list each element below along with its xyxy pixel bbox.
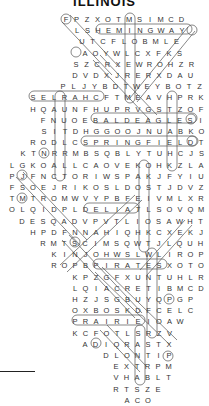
mark-vertical-1 bbox=[125, 13, 135, 103]
mark-vertical-2 bbox=[55, 91, 65, 181]
mark-diagonal-7-outline bbox=[95, 267, 177, 345]
mark-diagonal-1 bbox=[66, 18, 115, 70]
mark-diagonal-2-outline bbox=[130, 27, 195, 102]
mark-circle-11 bbox=[91, 338, 101, 348]
mark-circle-4 bbox=[186, 114, 196, 124]
mark-diagonal-6-outline bbox=[62, 235, 142, 318]
mark-vertical-6 bbox=[135, 325, 145, 385]
mark-circle-9 bbox=[70, 237, 80, 247]
mark-vertical-3 bbox=[167, 91, 177, 171]
mark-selrahc bbox=[29, 91, 104, 101]
bottom-divider bbox=[0, 371, 35, 372]
mark-baldeagles bbox=[91, 113, 197, 123]
grid-letter[interactable]: C bbox=[133, 395, 143, 406]
mark-deliat bbox=[84, 203, 139, 213]
mark-circle-8 bbox=[17, 193, 27, 203]
grid-letter[interactable]: A bbox=[122, 395, 132, 406]
grid-letter[interactable]: O bbox=[143, 395, 153, 406]
mark-circle-5 bbox=[187, 136, 197, 146]
mark-circle-3 bbox=[71, 47, 81, 57]
mark-springfield bbox=[81, 136, 198, 146]
mark-circle-12 bbox=[163, 351, 173, 361]
mark-circle-10 bbox=[164, 294, 174, 304]
mark-diagonal-4-outline bbox=[60, 195, 142, 272]
mark-diagonal-9-outline bbox=[100, 325, 147, 372]
mark-diagonal-5-outline bbox=[16, 172, 87, 245]
mark-pirates bbox=[93, 259, 167, 269]
mark-circle-6 bbox=[39, 148, 49, 158]
mark-hemingway bbox=[96, 24, 192, 34]
mark-vertical-4 bbox=[139, 160, 149, 252]
